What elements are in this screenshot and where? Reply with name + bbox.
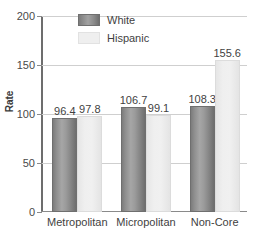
y-tick-label: 50 [23,157,35,169]
bar-value-label: 96.4 [54,105,75,117]
bar-group: 108.3155.6 [178,16,247,212]
legend-item-hispanic[interactable]: Hispanic [78,30,149,46]
bar-hispanic-micropolitan[interactable]: 99.1 [146,115,171,212]
legend-label-hispanic: Hispanic [107,32,149,44]
category-label-micropolitan: Micropolitan [116,216,175,228]
bar-white-non-core[interactable]: 108.3 [190,106,215,212]
legend-label-white: White [107,14,135,26]
legend-swatch-white-icon [78,14,100,26]
grouped-bar-chart: Rate 050100150200 96.497.8106.799.1108.3… [0,0,253,240]
category-label-metropolitan: Metropolitan [47,216,108,228]
chart-legend: White Hispanic [78,12,149,48]
legend-swatch-hispanic-icon [78,32,100,44]
y-axis-title: Rate [4,82,15,122]
bar-hispanic-metropolitan[interactable]: 97.8 [77,116,102,212]
bar-white-micropolitan[interactable]: 106.7 [121,107,146,212]
bar-value-label: 106.7 [120,94,148,106]
y-tick-mark [37,212,42,213]
legend-item-white[interactable]: White [78,12,149,28]
y-tick-label: 200 [17,10,35,22]
y-tick-label: 100 [17,108,35,120]
category-label-non-core: Non-Core [191,216,239,228]
bar-value-label: 155.6 [213,47,241,59]
y-tick-label: 150 [17,59,35,71]
bar-white-metropolitan[interactable]: 96.4 [52,118,77,212]
bar-value-label: 99.1 [148,102,169,114]
bar-value-label: 97.8 [79,103,100,115]
bar-value-label: 108.3 [188,93,216,105]
bar-hispanic-non-core[interactable]: 155.6 [215,60,240,212]
y-tick-label: 0 [29,206,35,218]
